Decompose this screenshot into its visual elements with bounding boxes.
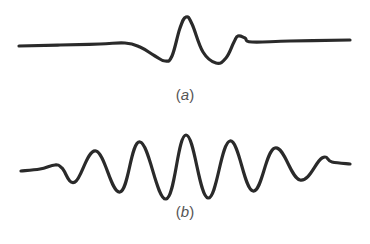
- label-letter-a: a: [181, 86, 189, 103]
- panel-label-a: (a): [155, 86, 215, 103]
- label-paren-close: ): [189, 86, 194, 103]
- label-paren-close: ): [189, 203, 194, 220]
- wave-train-b: [21, 135, 350, 199]
- label-letter-b: b: [181, 203, 189, 220]
- wave-pulse-a: [19, 17, 350, 64]
- panel-label-b: (b): [155, 203, 215, 220]
